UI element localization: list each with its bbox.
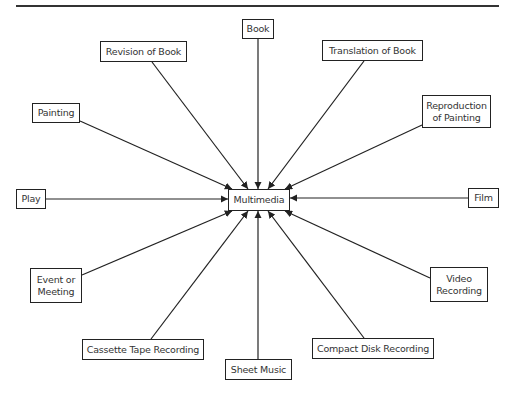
edge-event	[82, 211, 232, 275]
node-film: Film	[468, 188, 499, 208]
node-revision-of-book: Revision of Book	[100, 41, 187, 62]
node-translation-of-book: Translation of Book	[322, 40, 423, 61]
edge-revision	[152, 62, 248, 189]
edge-cassette	[151, 211, 248, 339]
node-cassette-tape-recording: Cassette Tape Recording	[82, 339, 204, 360]
node-compact-disk-recording: Compact Disk Recording	[312, 338, 434, 359]
node-event-or-meeting: Event or Meeting	[30, 268, 82, 303]
node-play: Play	[16, 189, 46, 209]
node-reproduction-of-painting: Reproduction of Painting	[422, 95, 491, 128]
node-video-recording: Video Recording	[430, 267, 488, 302]
node-sheet-music: Sheet Music	[225, 359, 292, 380]
edge-translation	[268, 61, 364, 189]
edge-painting	[80, 121, 232, 189]
edge-reproduction	[285, 125, 422, 189]
node-book: Book	[242, 19, 274, 39]
edge-video	[285, 211, 430, 278]
node-painting: Painting	[32, 103, 80, 123]
edge-compact	[268, 211, 364, 338]
node-multimedia: Multimedia	[228, 189, 290, 211]
